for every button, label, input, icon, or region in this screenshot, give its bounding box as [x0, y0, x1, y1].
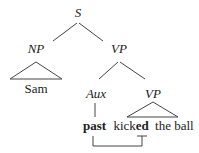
- np-triangle: [10, 62, 62, 79]
- edge-s-vp: [79, 23, 103, 41]
- node-s: S: [75, 5, 82, 20]
- vp-triangle: [127, 102, 178, 117]
- edge-s-np: [53, 23, 77, 41]
- leaf-kick: kick: [113, 118, 136, 133]
- syntax-tree-diagram: S NP Sam VP Aux VP past kicked the ball: [0, 0, 199, 153]
- edge-vp-vp: [120, 62, 145, 79]
- leaf-past: past: [83, 118, 107, 133]
- node-vp-inner: VP: [145, 86, 161, 101]
- affix-hop-bracket: [93, 136, 142, 146]
- leaf-string: past kicked the ball: [83, 118, 194, 133]
- leaf-the-ball: the ball: [155, 118, 194, 133]
- leaf-sam: Sam: [24, 81, 47, 96]
- node-aux: Aux: [85, 86, 106, 101]
- node-np: NP: [27, 41, 45, 56]
- node-vp: VP: [111, 41, 127, 56]
- edge-vp-aux: [99, 62, 118, 79]
- leaf-ed: ed: [136, 118, 150, 133]
